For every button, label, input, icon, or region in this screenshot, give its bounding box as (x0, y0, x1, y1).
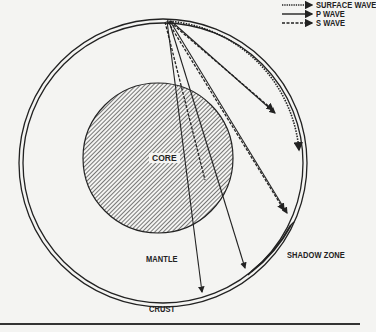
crust-label: CRUST (149, 304, 175, 314)
shadow-zone-tick-bottom (248, 272, 251, 275)
mantle-label: MANTLE (146, 254, 178, 264)
legend-s-wave-label: S WAVE (316, 18, 345, 28)
core-label: CORE (149, 153, 180, 163)
shadow-zone-label: SHADOW ZONE (287, 250, 345, 260)
